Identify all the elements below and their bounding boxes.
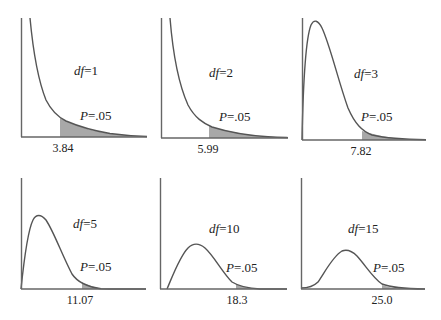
df-label-panel-3: df=3 bbox=[354, 67, 378, 80]
df-label-panel-6: df=15 bbox=[348, 222, 378, 235]
df-label-panel-4: df=5 bbox=[73, 217, 97, 230]
p-label-panel-4: P=.05 bbox=[80, 260, 112, 273]
df-label-panel-2: df=2 bbox=[209, 66, 233, 79]
df-label-panel-1: df=1 bbox=[74, 64, 98, 77]
p-label-panel-5: P=.05 bbox=[226, 261, 258, 274]
curve-df-15 bbox=[301, 250, 425, 289]
critical-value-panel-1: 3.84 bbox=[53, 142, 74, 154]
p-label-panel-2: P=.05 bbox=[219, 110, 251, 123]
critical-value-panel-2: 5.99 bbox=[198, 143, 219, 155]
df-label-panel-5: df=10 bbox=[209, 222, 239, 235]
p-label-panel-3: P=.05 bbox=[361, 110, 393, 123]
tail-shade-df-2 bbox=[209, 126, 287, 138]
p-label-panel-1: P=.05 bbox=[80, 109, 112, 122]
critical-value-panel-6: 25.0 bbox=[372, 294, 393, 306]
p-label-panel-6: P=.05 bbox=[373, 261, 405, 274]
critical-value-panel-3: 7.82 bbox=[351, 145, 372, 157]
critical-value-panel-5: 18.3 bbox=[227, 294, 248, 306]
critical-value-panel-4: 11.07 bbox=[67, 294, 94, 306]
